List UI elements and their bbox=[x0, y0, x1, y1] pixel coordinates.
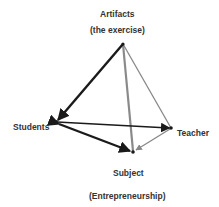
node-students bbox=[54, 120, 58, 124]
label-subject: Subject bbox=[113, 168, 144, 178]
edge-teacher-subject bbox=[136, 129, 170, 150]
node-subject bbox=[131, 150, 135, 154]
label-students: Students bbox=[13, 122, 49, 132]
edge-students-teacher bbox=[57, 122, 169, 128]
label-artifacts: Artifacts bbox=[100, 9, 134, 19]
label-teacher: Teacher bbox=[177, 128, 209, 138]
edge-artifacts-students bbox=[58, 44, 123, 120]
node-teacher bbox=[169, 126, 173, 130]
label-artifacts-sub: (the exercise) bbox=[90, 25, 145, 35]
label-subject-sub: (Entrepreneurship) bbox=[89, 191, 166, 201]
node-artifacts bbox=[121, 42, 124, 45]
edge-students-subject bbox=[59, 124, 130, 151]
